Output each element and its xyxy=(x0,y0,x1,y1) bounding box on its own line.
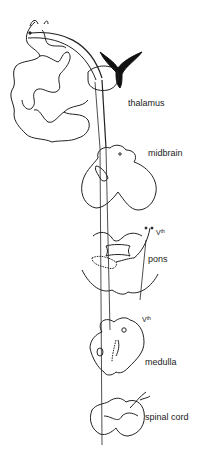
label-thalamus: thalamus xyxy=(128,99,165,108)
label-nerve-pons-sup: th xyxy=(161,228,165,234)
label-nerve-pons: Vth xyxy=(156,229,165,236)
pathway-diagram xyxy=(0,0,204,460)
label-midbrain: midbrain xyxy=(148,149,183,158)
lateral-ventricle xyxy=(100,52,142,88)
label-nerve-medulla: Vth xyxy=(142,316,151,323)
spinal-cord-outline xyxy=(90,398,144,436)
label-spinal-cord: spinal cord xyxy=(145,413,189,422)
cerebral-cortex xyxy=(11,20,89,142)
thalamocortical-fiber xyxy=(30,33,102,78)
medulla-outline xyxy=(90,318,144,375)
label-pons: pons xyxy=(148,255,168,264)
label-medulla: medulla xyxy=(145,358,177,367)
label-nerve-medulla-sup: th xyxy=(147,315,151,321)
thalamocortical-fiber-2 xyxy=(28,38,96,80)
